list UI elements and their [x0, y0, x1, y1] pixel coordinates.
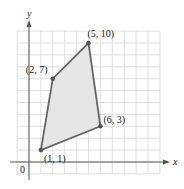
x-axis-arrow-icon: [163, 160, 170, 165]
point-marker: [51, 76, 56, 81]
y-axis-label: y: [26, 8, 32, 19]
point-label: (5, 10): [88, 28, 115, 40]
point-label: (6, 3): [103, 114, 125, 126]
point-marker: [39, 148, 44, 153]
origin-label: 0: [20, 164, 25, 175]
point-label: (1, 1): [44, 153, 66, 165]
point-marker: [86, 41, 91, 46]
quadrilateral: [41, 43, 101, 150]
y-axis-arrow-icon: [27, 20, 32, 27]
point-marker: [98, 124, 103, 129]
x-axis-label: x: [172, 156, 178, 167]
coordinate-plane: x y 0 (1, 1)(6, 3)(5, 10)(2, 7): [0, 0, 184, 189]
point-label: (2, 7): [26, 64, 48, 76]
